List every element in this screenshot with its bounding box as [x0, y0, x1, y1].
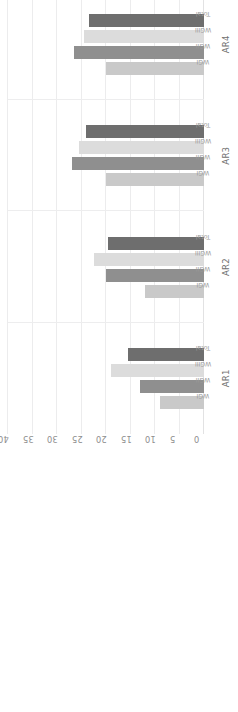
bar-group-ar4: WGIWGIIWGIIITotalAR4 [8, 0, 204, 100]
bar-ar4-total[interactable] [89, 14, 204, 27]
bar-stack [8, 323, 204, 434]
series-tick-label-wgi: WGI [197, 278, 210, 291]
bar-ar3-total[interactable] [86, 125, 204, 138]
x-axis-group-label: AR4 [221, 0, 231, 100]
series-tick-label-wgi: WGI [197, 167, 210, 180]
series-tick-label-wgii: WGII [197, 262, 210, 275]
series-tick-labels: WGIWGIIWGIIITotal [204, 0, 216, 100]
series-tick-label-total: Total [197, 7, 210, 20]
bar-group-ar1: WGIWGIIWGIIITotalAR1 [8, 323, 204, 434]
y-axis-tick-label: 10 [145, 434, 156, 444]
y-axis-tick-label: 30 [47, 434, 58, 444]
rotated-chart-container: Percentage of IPCC Authors from the Glob… [0, 0, 238, 474]
x-axis-group-label: AR2 [221, 211, 231, 322]
series-tick-label-wgiii: WGIII [197, 135, 210, 148]
bar-ar4-wgii[interactable] [74, 46, 204, 59]
series-tick-labels: WGIWGIIWGIIITotal [204, 323, 216, 434]
bar-ar2-wgii[interactable] [106, 269, 204, 282]
series-tick-labels: WGIWGIIWGIIITotal [204, 100, 216, 211]
bar-ar2-wgiii[interactable] [94, 253, 204, 266]
bar-stack [8, 211, 204, 322]
series-tick-label-wgii: WGII [197, 39, 210, 52]
series-tick-label-wgiii: WGIII [197, 23, 210, 36]
series-tick-label-wgii: WGII [197, 373, 210, 386]
y-axis-tick-label: 0 [194, 434, 199, 444]
bar-ar3-wgii[interactable] [72, 157, 204, 170]
bar-ar1-total[interactable] [128, 348, 204, 361]
y-axis-tick-label: 15 [121, 434, 132, 444]
y-axis-tick-label: 25 [72, 434, 83, 444]
bar-stack [8, 100, 204, 211]
series-tick-label-wgiii: WGIII [197, 246, 210, 259]
bar-ar4-wgi[interactable] [106, 62, 204, 75]
bar-ar3-wgiii[interactable] [79, 141, 204, 154]
series-tick-label-wgii: WGII [197, 151, 210, 164]
bar-group-ar3: WGIWGIIWGIIITotalAR3 [8, 100, 204, 211]
series-tick-label-total: Total [197, 341, 210, 354]
y-axis-tick-label: 20 [96, 434, 107, 444]
bar-ar3-wgi[interactable] [106, 173, 204, 186]
series-tick-label-wgiii: WGIII [197, 357, 210, 370]
series-tick-labels: WGIWGIIWGIIITotal [204, 211, 216, 322]
y-axis-tick-label: 35 [23, 434, 34, 444]
series-tick-label-total: Total [197, 230, 210, 243]
series-tick-label-wgi: WGI [197, 55, 210, 68]
x-axis-group-label: AR1 [221, 323, 231, 434]
bar-stack [8, 0, 204, 100]
bar-chart: Percentage of IPCC Authors from the Glob… [0, 0, 238, 474]
y-axis-tick-label: 5 [170, 434, 175, 444]
series-tick-label-wgi: WGI [197, 389, 210, 402]
chart-canvas: Percentage of IPCC Authors from the Glob… [0, 0, 238, 712]
x-axis-group-label: AR3 [221, 100, 231, 211]
bar-ar4-wgiii[interactable] [84, 30, 204, 43]
bar-group-ar2: WGIWGIIWGIIITotalAR2 [8, 211, 204, 322]
bar-ar2-total[interactable] [108, 237, 204, 250]
plot-area: 0510152025303540WGIWGIIWGIIITotalAR1WGIW… [8, 0, 204, 434]
y-axis-tick-label: 40 [0, 434, 9, 444]
bar-ar1-wgiii[interactable] [111, 364, 204, 377]
series-tick-label-total: Total [197, 119, 210, 132]
